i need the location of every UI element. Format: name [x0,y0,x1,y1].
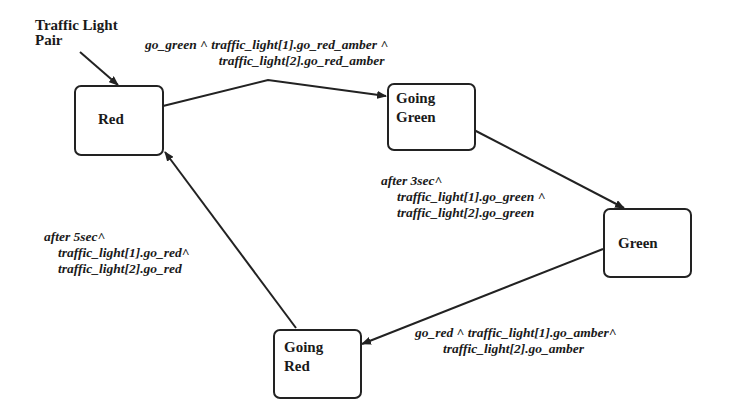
state-red[interactable]: Red [74,85,164,156]
state-label: Green [618,234,658,253]
arrow-red-to-going-green [163,80,386,106]
transition-label-going-red-to-red: after 5sec^ traffic_light[1].go_red^ tra… [44,229,190,277]
transition-label-going-green-to-green: after 3sec^ traffic_light[1].go_green ^ … [381,173,545,221]
transition-label-red-to-going-green: go_green ^ traffic_light[1].go_red_amber… [145,37,388,69]
state-going-green[interactable]: Going Green [387,83,476,151]
state-green[interactable]: Green [603,208,692,278]
state-label: Going Red [284,338,323,376]
transition-label-green-to-going-red: go_red ^ traffic_light[1].go_amber^ traf… [415,325,617,357]
state-label: Going Green [396,89,436,127]
state-label: Red [98,110,124,129]
initial-arrow [80,52,118,85]
initial-state-label: Traffic Light Pair [35,18,118,48]
state-going-red[interactable]: Going Red [273,329,362,399]
